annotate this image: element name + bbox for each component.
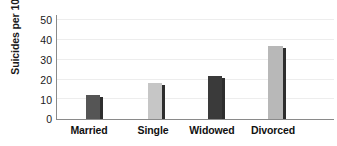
bar-chart: Suicides per 100,000 50 40 30 20 10 0: [0, 0, 337, 146]
plot-area: [56, 15, 334, 119]
x-axis-line: [56, 119, 334, 120]
y-tick-label: 20: [30, 75, 52, 85]
y-tick-label: 10: [30, 95, 52, 105]
x-label-single: Single: [125, 124, 181, 136]
bar-face: [148, 83, 162, 119]
y-axis-title: Suicides per 100,000: [9, 0, 29, 77]
x-label-widowed: Widowed: [181, 124, 243, 136]
gridline-50: [56, 19, 334, 20]
bar-divorced: [268, 46, 286, 119]
bar-face: [268, 46, 283, 119]
bar-married: [86, 95, 103, 119]
gridline-20: [56, 79, 334, 80]
y-axis-line: [56, 15, 57, 120]
y-tick-label: 0: [30, 114, 52, 124]
gridline-30: [56, 59, 334, 60]
bar-shadow: [222, 78, 225, 119]
bar-face: [86, 95, 100, 119]
y-tick-label: 30: [30, 55, 52, 65]
bar-shadow: [162, 85, 165, 119]
y-tick-label: 40: [30, 35, 52, 45]
bar-widowed: [208, 76, 225, 119]
y-axis-tick-labels: 50 40 30 20 10 0: [28, 0, 52, 146]
gridline-40: [56, 39, 334, 40]
bar-shadow: [283, 48, 286, 119]
y-tick-label: 50: [30, 15, 52, 25]
bar-shadow: [100, 97, 103, 119]
bar-face: [208, 76, 222, 119]
x-label-divorced: Divorced: [241, 124, 305, 136]
bar-single: [148, 83, 165, 119]
x-label-married: Married: [59, 124, 119, 136]
